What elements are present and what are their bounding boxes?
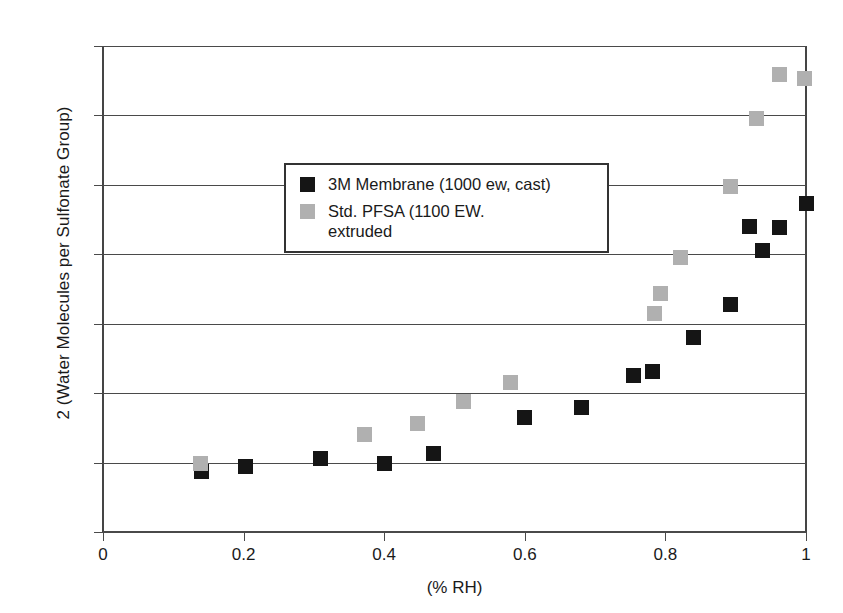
x-axis-title: (% RH) [103, 578, 806, 598]
data-point [799, 196, 814, 211]
y-tick-mark [94, 532, 103, 533]
x-axis-line [103, 531, 806, 533]
data-point [653, 286, 668, 301]
data-point [645, 364, 660, 379]
x-tick-label: 0.6 [503, 546, 547, 563]
x-tick-mark [103, 532, 104, 541]
y-axis-line [102, 46, 104, 533]
gridline [103, 46, 806, 47]
data-point [749, 111, 764, 126]
gridline [103, 254, 806, 255]
gridline [103, 324, 806, 325]
data-point [456, 394, 471, 409]
data-point [357, 427, 372, 442]
data-point [772, 67, 787, 82]
data-point [238, 459, 253, 474]
y-tick-mark [94, 463, 103, 464]
legend-item: 3M Membrane (1000 ew, cast) [300, 174, 607, 195]
data-point [723, 179, 738, 194]
legend-swatch-icon [300, 204, 315, 219]
data-point [313, 451, 328, 466]
data-point [517, 410, 532, 425]
x-tick-label: 0.2 [222, 546, 266, 563]
y-axis-title: 2 (Water Molecules per Sulfonate Group) [54, 23, 74, 503]
y-tick-mark [94, 324, 103, 325]
data-point [647, 306, 662, 321]
gridline [103, 393, 806, 394]
legend-item: Std. PFSA (1100 EW. extruded [300, 201, 607, 242]
y-tick-mark [94, 46, 103, 47]
y-tick-mark [94, 115, 103, 116]
y-tick-mark [94, 185, 103, 186]
chart-figure: 2 (Water Molecules per Sulfonate Group) … [0, 0, 843, 613]
y-tick-mark [94, 393, 103, 394]
x-tick-label: 0 [81, 546, 125, 563]
data-point [426, 446, 441, 461]
data-point [742, 219, 757, 234]
plot-area: 00.20.40.60.81 3M Membrane (1000 ew, cas… [103, 46, 806, 532]
data-point [410, 416, 425, 431]
x-tick-mark [525, 532, 526, 541]
y-tick-mark [94, 254, 103, 255]
chart-legend: 3M Membrane (1000 ew, cast)Std. PFSA (11… [284, 163, 609, 253]
legend-swatch-icon [300, 177, 315, 192]
x-tick-label: 0.4 [362, 546, 406, 563]
x-tick-mark [806, 532, 807, 541]
data-point [797, 71, 812, 86]
legend-label: Std. PFSA (1100 EW. extruded [328, 201, 485, 242]
data-point [503, 375, 518, 390]
x-tick-label: 0.8 [643, 546, 687, 563]
x-tick-label: 1 [784, 546, 828, 563]
legend-label: 3M Membrane (1000 ew, cast) [328, 174, 551, 195]
data-point [574, 400, 589, 415]
data-point [755, 243, 770, 258]
x-tick-mark [384, 532, 385, 541]
data-point [193, 456, 208, 471]
data-point [377, 456, 392, 471]
x-tick-mark [244, 532, 245, 541]
data-point [626, 368, 641, 383]
data-point [686, 330, 701, 345]
data-point [772, 220, 787, 235]
data-point [723, 297, 738, 312]
gridline [103, 115, 806, 116]
data-point [673, 250, 688, 265]
plot-right-border [805, 46, 807, 533]
x-tick-mark [665, 532, 666, 541]
